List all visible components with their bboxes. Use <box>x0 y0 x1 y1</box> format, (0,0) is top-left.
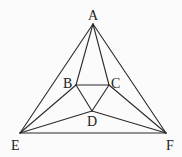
point-label-d: D <box>87 114 97 129</box>
segment-fd <box>92 111 166 133</box>
point-label-e: E <box>11 138 20 153</box>
segment-ac <box>93 24 109 85</box>
segment-bd <box>76 85 92 111</box>
point-label-c: C <box>111 76 120 91</box>
point-label-b: B <box>63 76 72 91</box>
segment-ed <box>20 111 92 133</box>
segment-ab <box>76 24 93 85</box>
segment-cd <box>92 85 109 111</box>
geometry-diagram: A B C D E F <box>0 0 182 157</box>
segment-eb <box>20 85 76 133</box>
segment-af <box>93 24 166 133</box>
segment-fc <box>109 85 166 133</box>
segment-ae <box>20 24 93 133</box>
point-label-f: F <box>166 138 174 153</box>
point-label-a: A <box>88 8 99 23</box>
point-labels: A B C D E F <box>11 8 174 153</box>
